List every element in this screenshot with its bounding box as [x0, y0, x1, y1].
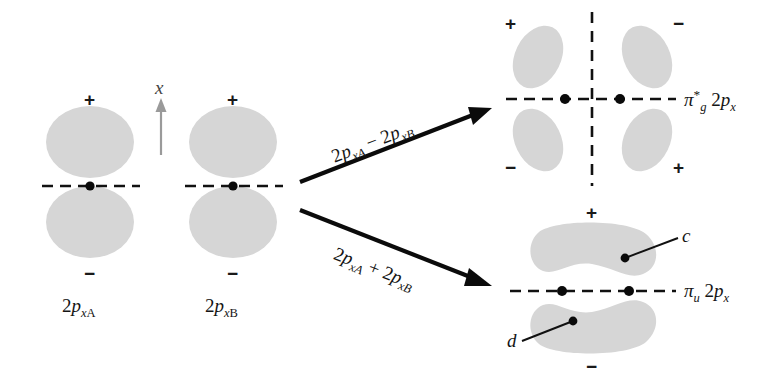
- sign-2pxB-top: +: [227, 90, 238, 109]
- label-2pxA-num: 2: [62, 295, 72, 316]
- callout-label-d: d: [507, 331, 517, 350]
- sign-2pxA-bottom: −: [84, 264, 95, 283]
- lobe-2pxB-top: [189, 106, 277, 178]
- diagram-graphics: [0, 0, 765, 376]
- sign-2pxA-top: +: [84, 90, 95, 109]
- sign-pistar-bottom-right: +: [673, 158, 684, 177]
- lobe-2pxA-top: [46, 106, 134, 178]
- nucleus-2pxB: [228, 181, 237, 190]
- nucleus-pistar-right: [615, 94, 625, 104]
- atomic-orbital-label-2pxA: 2pxA: [62, 296, 96, 319]
- sign-2pxB-bottom: −: [227, 264, 238, 283]
- x-axis-indicator-arrow: [156, 98, 167, 155]
- nucleus-piu-left: [557, 286, 567, 296]
- nucleus-piu-right: [624, 286, 634, 296]
- label-2pxB-p: p: [215, 295, 225, 316]
- sign-pistar-top-right: −: [673, 14, 684, 33]
- sign-piu-bottom: −: [586, 357, 597, 376]
- eq1-operator: −: [363, 130, 381, 153]
- mo-label-pi-star-g: π*g 2px: [684, 88, 736, 114]
- mo-symbol-pi-star: π: [684, 89, 694, 110]
- lobe-piu-top: [530, 222, 656, 275]
- lobe-2pxA-bottom: [46, 186, 134, 258]
- lobe-2pxB-bottom: [189, 186, 277, 258]
- molecular-orbital-pi-u: [510, 222, 678, 353]
- molecular-orbital-diagram: x + − + − 2pxA 2pxB 2pxA − 2pxB 2pxA + 2…: [0, 0, 765, 376]
- mo-suffix-p-pistar: p: [721, 89, 731, 110]
- mo-label-pi-u: πu 2px: [684, 281, 729, 304]
- nucleus-pistar-left: [560, 94, 570, 104]
- mo-suffix-num-pistar: 2: [711, 89, 721, 110]
- mo-symbol-pi: π: [684, 280, 694, 301]
- sign-pistar-top-left: +: [505, 14, 516, 33]
- mo-suffix-sub-pistar: x: [730, 100, 736, 114]
- mo-suffix-num-piu: 2: [705, 280, 715, 301]
- mo-suffix-sub-piu: x: [724, 291, 730, 305]
- nucleus-2pxA: [85, 181, 94, 190]
- sign-pistar-bottom-left: −: [505, 158, 516, 177]
- lobe-piu-bottom: [530, 300, 656, 353]
- label-2pxB-sub-atom: B: [230, 306, 238, 320]
- mo-suffix-p-piu: p: [714, 280, 724, 301]
- lobe-pistar-bottom-right: [612, 100, 682, 179]
- callout-label-c: c: [682, 226, 690, 245]
- mo-subscript-u: u: [694, 291, 700, 305]
- molecular-orbital-pi-star-g: [503, 12, 682, 186]
- label-2pxA-sub-atom: A: [87, 306, 96, 320]
- atomic-orbital-2pxB: [185, 106, 283, 258]
- label-2pxA-p: p: [72, 295, 82, 316]
- mo-subscript-g: g: [700, 100, 706, 114]
- label-2pxB-num: 2: [205, 295, 215, 316]
- lobe-pistar-top-right: [612, 17, 682, 96]
- atomic-orbital-2pxA: [42, 106, 140, 258]
- sign-piu-top: +: [586, 203, 597, 222]
- atomic-orbital-label-2pxB: 2pxB: [205, 296, 238, 319]
- x-axis-label: x: [155, 78, 163, 97]
